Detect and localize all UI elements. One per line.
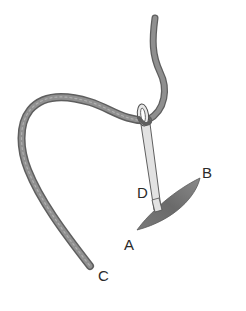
label-c: C <box>98 268 109 283</box>
label-b: B <box>202 165 212 180</box>
label-d: D <box>137 185 148 200</box>
needle-thread-diagram <box>0 0 246 311</box>
thread <box>22 18 165 266</box>
label-a: A <box>124 237 134 252</box>
